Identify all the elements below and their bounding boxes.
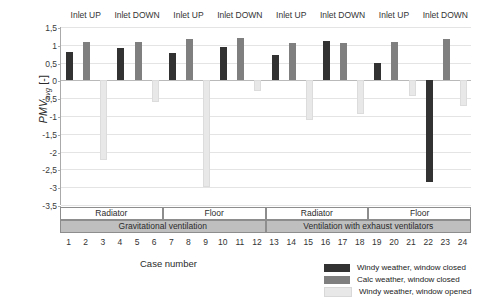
bar-slot-case-24 — [455, 27, 472, 205]
ventilation-band-2: Ventilation with exhaust ventilators — [266, 220, 472, 233]
inlet-label-8: Inlet DOWN — [420, 9, 471, 22]
legend-item-3[interactable]: Windy weather, window opened — [324, 286, 484, 297]
case-number-10: 10 — [214, 237, 231, 247]
bar-slot-case-3 — [95, 27, 112, 205]
bar-case-3[interactable] — [100, 80, 107, 160]
case-number-20: 20 — [385, 237, 402, 247]
bar-case-24[interactable] — [460, 80, 467, 106]
case-number-5: 5 — [129, 237, 146, 247]
x-axis-title: Case number — [140, 258, 197, 269]
case-number-8: 8 — [180, 237, 197, 247]
heating-band-2: Floor — [163, 207, 266, 220]
case-number-21: 21 — [403, 237, 420, 247]
bar-case-13[interactable] — [272, 55, 279, 80]
case-number-1: 1 — [60, 237, 77, 247]
inlet-label-3: Inlet UP — [163, 9, 214, 22]
bar-slot-case-21 — [404, 27, 421, 205]
bar-case-2[interactable] — [83, 42, 90, 80]
bar-slot-case-16 — [318, 27, 335, 205]
bar-slot-case-14 — [284, 27, 301, 205]
legend-swatch-2 — [324, 276, 350, 284]
case-number-7: 7 — [163, 237, 180, 247]
case-number-18: 18 — [351, 237, 368, 247]
bar-slot-case-12 — [249, 27, 266, 205]
inlet-label-2: Inlet DOWN — [111, 9, 162, 22]
bar-slot-case-6 — [147, 27, 164, 205]
bar-slot-case-10 — [215, 27, 232, 205]
bar-case-8[interactable] — [186, 39, 193, 80]
bar-case-23[interactable] — [443, 39, 450, 80]
y-tick-label: -1 — [49, 112, 57, 122]
y-tick-label: -3 — [49, 183, 57, 193]
case-number-2: 2 — [77, 237, 94, 247]
bar-case-18[interactable] — [357, 80, 364, 114]
case-number-23: 23 — [437, 237, 454, 247]
y-axis-title-unit: [-] — [37, 75, 49, 85]
case-number-19: 19 — [368, 237, 385, 247]
bar-slot-case-17 — [335, 27, 352, 205]
bar-case-10[interactable] — [220, 47, 227, 80]
bar-case-15[interactable] — [306, 80, 313, 120]
bar-slot-case-4 — [112, 27, 129, 205]
bar-slot-case-5 — [130, 27, 147, 205]
bar-case-19[interactable] — [374, 63, 381, 81]
case-number-17: 17 — [334, 237, 351, 247]
case-number-16: 16 — [317, 237, 334, 247]
case-number-4: 4 — [111, 237, 128, 247]
inlet-label-1: Inlet UP — [60, 9, 111, 22]
legend-label-1: Windy weather, window closed — [357, 263, 466, 272]
legend-item-2[interactable]: Calc weather, window closed — [324, 274, 484, 285]
case-number-22: 22 — [420, 237, 437, 247]
case-number-24: 24 — [454, 237, 471, 247]
case-number-3: 3 — [94, 237, 111, 247]
y-tick-label: -2,5 — [42, 165, 57, 175]
bar-slot-case-20 — [386, 27, 403, 205]
bar-slot-case-13 — [267, 27, 284, 205]
bar-case-9[interactable] — [203, 80, 210, 187]
ventilation-band-row: Gravitational ventilationVentilation wit… — [60, 220, 471, 233]
bar-case-16[interactable] — [323, 41, 330, 80]
bar-case-6[interactable] — [152, 80, 159, 102]
y-tick-label: 1 — [52, 41, 57, 51]
y-tick-label: 1,5 — [45, 23, 57, 33]
bar-case-11[interactable] — [237, 38, 244, 80]
bar-case-22[interactable] — [426, 80, 433, 181]
bar-slot-case-9 — [198, 27, 215, 205]
case-number-13: 13 — [266, 237, 283, 247]
y-tick-label: -1,5 — [42, 130, 57, 140]
bar-slot-case-11 — [232, 27, 249, 205]
case-number-11: 11 — [231, 237, 248, 247]
bar-slot-case-18 — [352, 27, 369, 205]
legend-item-1[interactable]: Windy weather, window closed — [324, 262, 484, 273]
bar-slot-case-8 — [181, 27, 198, 205]
bar-slot-case-19 — [369, 27, 386, 205]
inlet-group-labels: Inlet UPInlet DOWNInlet UPInlet DOWNInle… — [60, 9, 471, 24]
case-number-axis: 123456789101112131415161718192021222324 — [60, 237, 471, 249]
bar-case-21[interactable] — [409, 80, 416, 96]
bar-case-14[interactable] — [289, 43, 296, 80]
y-tick-label: 0,5 — [45, 59, 57, 69]
bar-case-5[interactable] — [135, 42, 142, 80]
bar-slot-case-1 — [61, 27, 78, 205]
gridline-neg3_5: -3,5 — [61, 205, 471, 206]
legend-swatch-3 — [324, 287, 352, 297]
case-number-9: 9 — [197, 237, 214, 247]
bar-case-17[interactable] — [340, 43, 347, 80]
legend-swatch-1 — [324, 264, 350, 272]
y-tick-label: -0,5 — [42, 94, 57, 104]
bar-case-20[interactable] — [391, 42, 398, 80]
heating-band-1: Radiator — [60, 207, 163, 220]
bar-slot-case-2 — [78, 27, 95, 205]
category-band-group: RadiatorFloorRadiatorFloor Gravitational… — [60, 207, 471, 233]
inlet-label-6: Inlet DOWN — [317, 9, 368, 22]
bar-case-1[interactable] — [66, 52, 73, 80]
bar-slot-case-15 — [301, 27, 318, 205]
bar-case-4[interactable] — [117, 48, 124, 81]
case-number-12: 12 — [248, 237, 265, 247]
case-number-15: 15 — [300, 237, 317, 247]
case-number-14: 14 — [283, 237, 300, 247]
bar-slot-case-7 — [164, 27, 181, 205]
bar-case-12[interactable] — [254, 80, 261, 91]
heating-band-4: Floor — [368, 207, 471, 220]
bar-case-7[interactable] — [169, 53, 176, 81]
